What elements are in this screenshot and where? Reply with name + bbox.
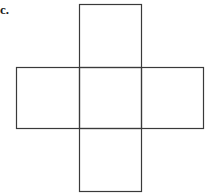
square-top (80, 5, 142, 68)
square-left (17, 68, 80, 129)
square-center (80, 68, 142, 129)
cross-net-diagram (0, 0, 212, 193)
square-bottom (80, 129, 142, 192)
square-right (142, 68, 204, 129)
